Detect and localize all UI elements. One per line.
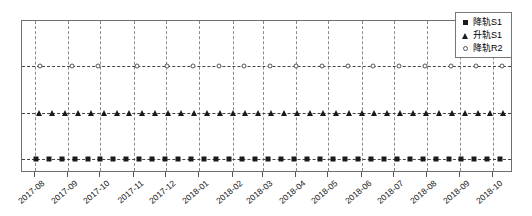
data-point-0-18 bbox=[266, 157, 271, 162]
data-point-2-12 bbox=[371, 64, 376, 69]
data-point-1-29 bbox=[410, 110, 416, 116]
circle-marker-icon bbox=[460, 46, 470, 51]
data-point-1-12 bbox=[191, 110, 197, 116]
data-point-0-32 bbox=[446, 157, 451, 162]
data-point-2-13 bbox=[397, 64, 402, 69]
x-tick-2018-03 bbox=[262, 172, 263, 177]
gridline-2017-10 bbox=[100, 21, 101, 171]
data-point-2-7 bbox=[242, 64, 247, 69]
data-point-1-30 bbox=[423, 110, 429, 116]
data-point-0-8 bbox=[137, 157, 142, 162]
data-point-2-1 bbox=[70, 64, 75, 69]
chart-legend: 降轨S1升轨S1降轨R2 bbox=[455, 12, 512, 58]
data-point-1-22 bbox=[320, 110, 326, 116]
data-point-0-21 bbox=[304, 157, 309, 162]
x-tick-label-2018-04: 2018-04 bbox=[277, 178, 307, 206]
data-point-2-10 bbox=[319, 64, 324, 69]
gridline-2017-09 bbox=[68, 21, 69, 171]
data-point-0-7 bbox=[124, 157, 129, 162]
data-point-0-1 bbox=[46, 157, 51, 162]
x-tick-2017-09 bbox=[67, 172, 68, 177]
data-point-1-5 bbox=[101, 110, 107, 116]
x-tick-label-2018-02: 2018-02 bbox=[214, 178, 244, 206]
data-point-1-17 bbox=[255, 110, 261, 116]
data-point-2-9 bbox=[293, 64, 298, 69]
legend-item-0[interactable]: 降轨S1 bbox=[460, 16, 508, 29]
gridline-2018-06 bbox=[362, 21, 363, 171]
data-point-0-14 bbox=[214, 157, 219, 162]
data-point-0-6 bbox=[111, 157, 116, 162]
data-point-0-10 bbox=[162, 157, 167, 162]
x-tick-label-2017-12: 2017-12 bbox=[147, 178, 177, 206]
x-tick-2017-11 bbox=[133, 172, 134, 177]
data-point-1-6 bbox=[114, 110, 120, 116]
data-point-0-22 bbox=[317, 157, 322, 162]
data-point-1-8 bbox=[139, 110, 145, 116]
data-point-1-15 bbox=[230, 110, 236, 116]
data-point-1-7 bbox=[126, 110, 132, 116]
x-tick-2017-12 bbox=[165, 172, 166, 177]
data-point-0-29 bbox=[407, 157, 412, 162]
data-point-1-32 bbox=[449, 110, 455, 116]
data-point-0-19 bbox=[278, 157, 283, 162]
data-point-2-0 bbox=[38, 64, 43, 69]
data-point-1-3 bbox=[75, 110, 81, 116]
x-tick-label-2018-06: 2018-06 bbox=[343, 178, 373, 206]
gridline-2018-07 bbox=[394, 21, 395, 171]
data-point-1-33 bbox=[462, 110, 468, 116]
x-tick-2018-07 bbox=[393, 172, 394, 177]
data-point-1-25 bbox=[359, 110, 365, 116]
x-tick-label-2018-03: 2018-03 bbox=[244, 178, 274, 206]
gridline-2017-08 bbox=[35, 21, 36, 171]
x-tick-label-2018-01: 2018-01 bbox=[180, 178, 210, 206]
data-point-0-3 bbox=[72, 157, 77, 162]
chart-figure: 2017-082017-092017-102017-112017-122018-… bbox=[0, 0, 532, 216]
x-tick-2018-01 bbox=[198, 172, 199, 177]
data-point-2-5 bbox=[190, 64, 195, 69]
data-point-1-20 bbox=[294, 110, 300, 116]
data-point-0-5 bbox=[98, 157, 103, 162]
data-point-0-27 bbox=[382, 157, 387, 162]
data-point-2-4 bbox=[165, 64, 170, 69]
legend-label-1: 升轨S1 bbox=[473, 29, 502, 42]
data-point-0-23 bbox=[330, 157, 335, 162]
x-tick-2017-08 bbox=[34, 172, 35, 177]
data-point-0-28 bbox=[394, 157, 399, 162]
legend-label-0: 降轨S1 bbox=[473, 16, 502, 29]
data-point-1-0 bbox=[36, 110, 42, 116]
data-point-0-9 bbox=[150, 157, 155, 162]
x-tick-label-2017-08: 2017-08 bbox=[16, 178, 46, 206]
data-point-1-1 bbox=[49, 110, 55, 116]
data-point-0-30 bbox=[420, 157, 425, 162]
legend-item-1[interactable]: 升轨S1 bbox=[460, 29, 508, 42]
data-point-0-16 bbox=[240, 157, 245, 162]
data-point-0-31 bbox=[433, 157, 438, 162]
data-point-0-11 bbox=[175, 157, 180, 162]
data-point-1-23 bbox=[333, 110, 339, 116]
data-point-1-21 bbox=[307, 110, 313, 116]
data-point-0-34 bbox=[472, 157, 477, 162]
triangle-marker-icon bbox=[460, 33, 470, 39]
x-tick-2018-08 bbox=[426, 172, 427, 177]
x-tick-2018-05 bbox=[327, 172, 328, 177]
x-tick-label-2017-09: 2017-09 bbox=[49, 178, 79, 206]
x-tick-2018-02 bbox=[232, 172, 233, 177]
data-point-0-15 bbox=[227, 157, 232, 162]
data-point-1-28 bbox=[397, 110, 403, 116]
data-point-1-4 bbox=[88, 110, 94, 116]
data-point-0-25 bbox=[356, 157, 361, 162]
data-point-0-20 bbox=[291, 157, 296, 162]
data-point-2-2 bbox=[96, 64, 101, 69]
data-point-2-8 bbox=[268, 64, 273, 69]
gridline-2018-03 bbox=[263, 21, 264, 171]
data-point-1-10 bbox=[165, 110, 171, 116]
gridline-2018-08 bbox=[427, 21, 428, 171]
data-point-1-9 bbox=[152, 110, 158, 116]
square-marker-icon bbox=[460, 20, 470, 25]
x-tick-label-2018-05: 2018-05 bbox=[309, 178, 339, 206]
data-point-1-11 bbox=[178, 110, 184, 116]
data-point-2-11 bbox=[345, 64, 350, 69]
data-point-0-4 bbox=[85, 157, 90, 162]
x-tick-label-2018-07: 2018-07 bbox=[375, 178, 405, 206]
legend-item-2[interactable]: 降轨R2 bbox=[460, 42, 508, 55]
